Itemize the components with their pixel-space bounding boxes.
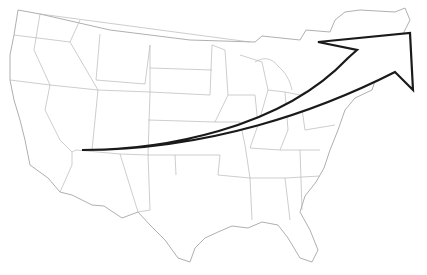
west-borders (10, 14, 72, 192)
us-outline-map (0, 0, 427, 275)
ut-co-nm (98, 90, 150, 212)
plains-borders (148, 45, 250, 178)
canada-border (40, 14, 250, 42)
lake-michigan (255, 59, 292, 90)
id-mt-wy (70, 20, 150, 90)
map-svg (0, 0, 427, 275)
